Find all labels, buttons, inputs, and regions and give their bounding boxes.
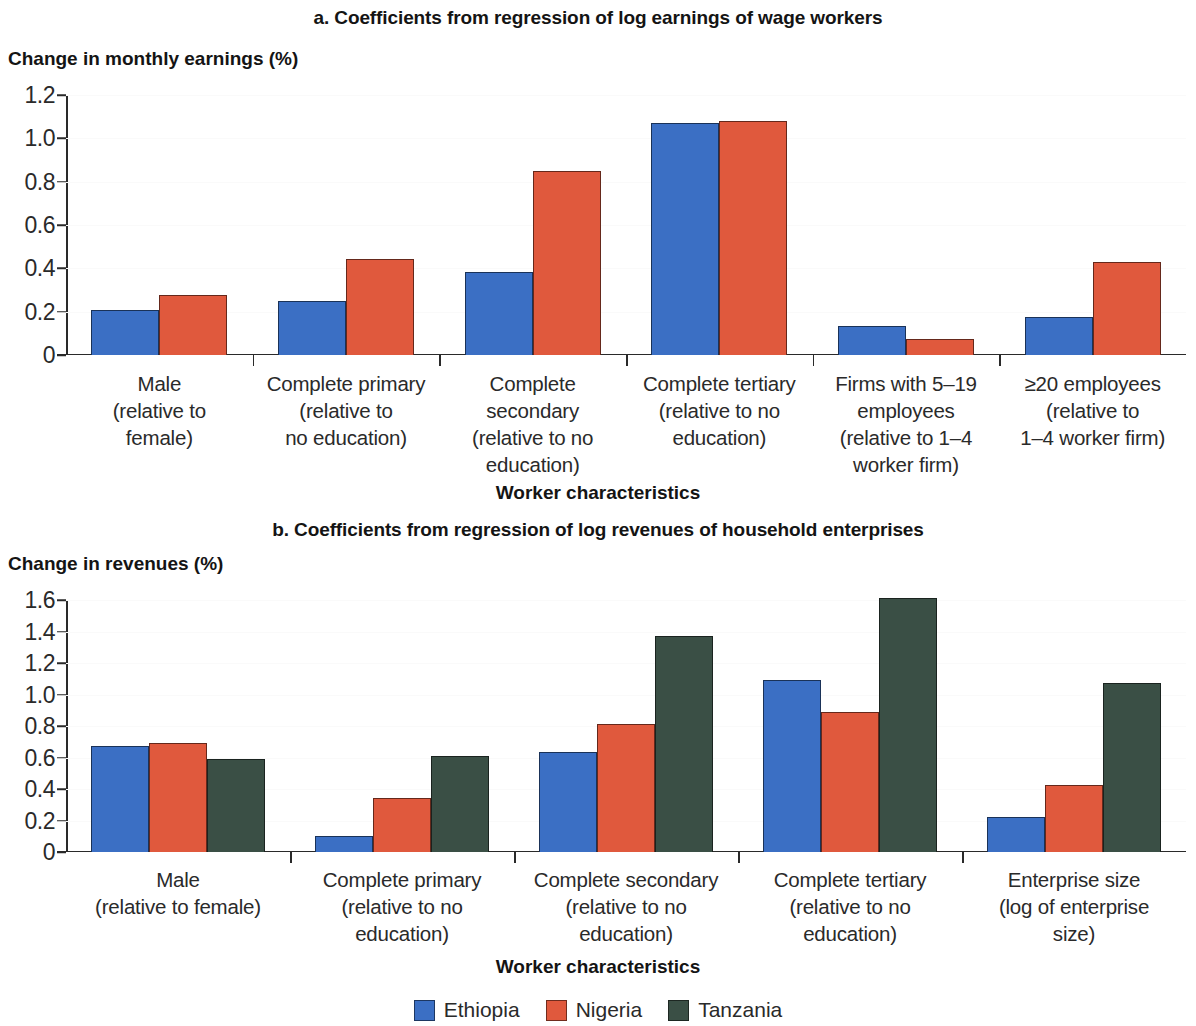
y-tick-label: 0 [43,839,66,866]
y-tick-label: 0.2 [25,298,66,325]
y-tick-label: 0.8 [25,713,66,740]
y-tick-label: 0.4 [25,776,66,803]
gridline [66,268,1186,269]
x-group-tick [439,355,441,366]
bar [315,836,373,852]
x-group-tick [962,852,964,863]
legend-item: Ethiopia [414,998,520,1022]
x-group-tick [514,852,516,863]
bar [159,295,227,355]
bar [906,339,974,355]
x-tick-label: Complete primary (relative to no educati… [290,866,514,947]
x-group-tick [813,355,815,366]
bar [373,798,431,852]
y-tick-label: 1.4 [25,618,66,645]
y-tick-label: 0.6 [25,212,66,239]
x-tick-label: Firms with 5–19 employees (relative to 1… [813,370,1000,478]
legend-swatch-icon [414,1000,435,1021]
panel-a-title: a. Coefficients from regression of log e… [0,7,1196,29]
bar [465,272,533,355]
y-tick-label: 1.2 [25,650,66,677]
x-tick-label: ≥20 employees (relative to 1–4 worker fi… [999,370,1186,451]
bar [651,123,719,355]
panel-b-x-axis-title: Worker characteristics [0,956,1196,978]
panel-a-y-axis-title: Change in monthly earnings (%) [8,48,298,70]
legend-label: Nigeria [576,998,643,1022]
gridline [66,600,1186,601]
x-tick-label: Male (relative to female) [66,866,290,920]
figure-root: a. Coefficients from regression of log e… [0,0,1196,1026]
x-group-tick [253,355,255,366]
bar [655,636,713,852]
x-group-tick [626,355,628,366]
x-tick-label: Complete tertiary (relative to no educat… [738,866,962,947]
legend-swatch-icon [546,1000,567,1021]
y-tick-label: 1.0 [25,681,66,708]
legend-item: Tanzania [668,998,782,1022]
y-tick-label: 0.2 [25,807,66,834]
bar [597,724,655,852]
gridline [66,695,1186,696]
bar [91,310,159,356]
legend-swatch-icon [668,1000,689,1021]
bar [879,598,937,852]
y-tick-label: 0.6 [25,744,66,771]
panel-b-y-axis-title: Change in revenues (%) [8,553,223,575]
gridline [66,312,1186,313]
gridline [66,632,1186,633]
bar [987,817,1045,852]
bar [207,759,265,852]
gridline [66,138,1186,139]
y-tick-label: 1.6 [25,587,66,614]
bar [821,712,879,852]
x-tick-label: Complete primary (relative to no educati… [253,370,440,451]
bar [838,326,906,355]
bar [1025,317,1093,355]
x-group-tick [290,852,292,863]
bar [91,746,149,852]
bar [719,121,787,355]
bar [1093,262,1161,355]
panel-a-plot-area: 00.20.40.60.81.01.2 [66,95,1186,355]
legend-label: Ethiopia [444,998,520,1022]
bar [1045,785,1103,852]
y-tick-label: 1.0 [25,125,66,152]
panel-b-plot-area: 00.20.40.60.81.01.21.41.6 [66,600,1186,852]
x-group-tick [999,355,1001,366]
x-tick-label: Male (relative to female) [66,370,253,451]
y-tick-label: 1.2 [25,82,66,109]
gridline [66,225,1186,226]
panel-b-title: b. Coefficients from regression of log r… [0,519,1196,541]
gridline [66,95,1186,96]
x-tick-label: Complete tertiary (relative to no educat… [626,370,813,451]
bar [763,680,821,852]
gridline [66,663,1186,664]
bar [346,259,414,355]
y-tick-label: 0.8 [25,168,66,195]
x-tick-label: Complete secondary (relative to no educa… [514,866,738,947]
bar [533,171,601,355]
x-tick-label: Enterprise size (log of enterprise size) [962,866,1186,947]
gridline [66,182,1186,183]
legend: EthiopiaNigeriaTanzania [0,998,1196,1022]
legend-label: Tanzania [698,998,782,1022]
y-tick-label: 0 [43,342,66,369]
bar [278,301,346,355]
panel-a-x-axis-title: Worker characteristics [0,482,1196,504]
x-group-tick [738,852,740,863]
bar [1103,683,1161,852]
x-tick-label: Complete secondary (relative to no educa… [439,370,626,478]
bar [431,756,489,852]
legend-item: Nigeria [546,998,643,1022]
bar [149,743,207,852]
bar [539,752,597,852]
y-tick-label: 0.4 [25,255,66,282]
